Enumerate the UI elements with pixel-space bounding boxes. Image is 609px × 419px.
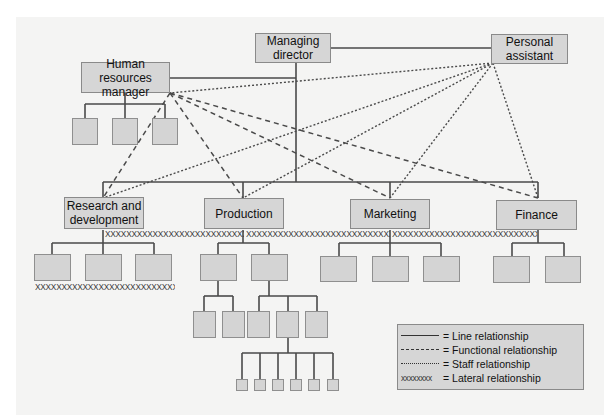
legend-item-functional: = Functional relationship <box>398 343 557 357</box>
node-finance: Finance <box>496 200 577 230</box>
rd-subordinate <box>85 254 122 281</box>
node-label-line: manager <box>102 85 149 99</box>
hr-subordinate <box>112 118 138 145</box>
production-subordinate <box>200 254 237 281</box>
production-grandchild <box>327 379 339 391</box>
production-subordinate <box>251 254 288 281</box>
node-label-line: Human resources <box>99 57 152 85</box>
solid-line-sample <box>401 331 439 341</box>
production-sub-child <box>222 311 245 338</box>
marketing-subordinate <box>320 256 357 282</box>
node-label-line: Production <box>215 207 272 221</box>
node-marketing: Marketing <box>350 199 430 229</box>
legend: = Line relationship = Functional relatio… <box>397 324 584 390</box>
node-personal-assistant: Personalassistant <box>491 34 568 64</box>
node-label-line: director <box>273 48 313 62</box>
lateral-line-marketing-finance: XXXXXXXXXXXXXXXXXXXXXXXXXXXXXX <box>392 229 537 239</box>
production-grandchild <box>254 379 266 391</box>
lateral-line-sample: xxxxxxxx <box>401 373 439 383</box>
finance-subordinate <box>493 256 530 283</box>
legend-item-lateral: xxxxxxxx = Lateral relationship <box>398 371 541 385</box>
node-label-line: Finance <box>515 208 558 222</box>
lateral-line-rd-production: XXXXXXXXXXXXXXXXXXXXXXXXXXXX <box>105 229 244 239</box>
legend-item-line: = Line relationship <box>398 329 529 343</box>
production-sub-child <box>276 311 299 338</box>
rd-subordinate <box>135 254 172 281</box>
production-grandchild <box>308 379 320 391</box>
legend-label: = Lateral relationship <box>443 372 541 384</box>
dashed-line-sample <box>401 345 439 355</box>
production-sub-child <box>247 311 270 338</box>
node-label-line: Marketing <box>364 207 417 221</box>
node-label-line: development <box>70 213 139 227</box>
rd-subordinate <box>34 254 71 281</box>
production-grandchild <box>290 379 302 391</box>
node-label-line: Managing <box>267 34 320 48</box>
node-research-development: Research anddevelopment <box>64 197 144 229</box>
node-hr-manager: Human resourcesmanager <box>81 62 170 93</box>
node-managing-director: Managingdirector <box>255 33 331 63</box>
production-sub-child <box>193 311 216 338</box>
marketing-subordinate <box>423 256 460 282</box>
production-grandchild <box>272 379 284 391</box>
legend-label: = Functional relationship <box>443 344 557 356</box>
legend-item-staff: = Staff relationship <box>398 357 530 371</box>
node-label-line: assistant <box>506 49 553 63</box>
hr-subordinate <box>152 118 178 145</box>
legend-label: = Line relationship <box>443 330 529 342</box>
production-sub-child <box>305 311 328 338</box>
lateral-line-production-marketing: XXXXXXXXXXXXXXXXXXXXXXXXXXXXXXXXXXXXXX <box>246 229 390 239</box>
legend-label: = Staff relationship <box>443 358 530 370</box>
lateral-line-rd-subordinates: XXXXXXXXXXXXXXXXXXXXXXXXXXXXXXXXX <box>35 282 175 292</box>
production-grandchild <box>236 379 248 391</box>
node-label-line: Personal <box>506 35 553 49</box>
node-label-line: Research and <box>67 199 142 213</box>
node-production: Production <box>204 198 284 229</box>
finance-subordinate <box>545 256 581 283</box>
marketing-subordinate <box>372 256 409 282</box>
dotted-line-sample <box>401 359 439 369</box>
hr-subordinate <box>72 118 98 145</box>
